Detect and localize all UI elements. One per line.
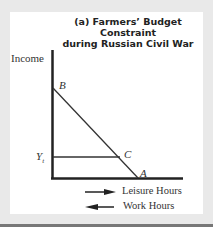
budget-line: [53, 88, 138, 178]
yt-subscript: t: [42, 157, 44, 165]
right-arrowhead-icon: [104, 189, 116, 195]
point-b-label: B: [59, 79, 66, 91]
point-a-label: A: [140, 167, 147, 179]
yt-label: Yt: [36, 150, 44, 165]
point-c-label: C: [124, 148, 131, 160]
legend-work-hours: Work Hours: [123, 200, 174, 211]
left-arrowhead-icon: [85, 204, 98, 210]
legend-leisure-hours: Leisure Hours: [122, 185, 182, 196]
